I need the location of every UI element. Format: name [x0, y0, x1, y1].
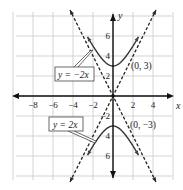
y-tick-label: 4	[106, 131, 111, 141]
y-tick-label: 2	[106, 71, 111, 81]
y-tick-label: −2	[100, 111, 110, 121]
y-axis-label: y	[117, 10, 123, 21]
y-axis-arrow-up	[110, 14, 116, 21]
x-tick-label: 4	[151, 100, 156, 110]
hyperbola-chart: −8−6−4−224642−246 x y (0, 3) (0, −3) y =…	[0, 0, 183, 190]
x-tick-label: −6	[48, 100, 58, 110]
callout-y-2x-text: y = 2x	[52, 120, 78, 130]
callout-y-neg2x-text: y = −2x	[57, 70, 90, 80]
y-tick-label: 6	[106, 151, 111, 161]
y-tick-label: 4	[106, 51, 111, 61]
y-axis-arrow-down	[110, 171, 116, 178]
x-tick-label: −8	[28, 100, 38, 110]
vertex-label-upper: (0, 3)	[131, 61, 152, 72]
x-tick-label: −4	[68, 100, 78, 110]
callout-y-2x: y = 2x	[49, 117, 96, 143]
x-tick-label: 2	[131, 100, 136, 110]
vertex-label-lower: (0, −3)	[130, 120, 156, 131]
x-tick-label: −2	[88, 100, 98, 110]
y-tick-label: 6	[106, 31, 111, 41]
origin-point	[111, 94, 115, 98]
callout-y-neg2x: y = −2x	[55, 50, 94, 81]
x-axis-label: x	[175, 100, 181, 111]
